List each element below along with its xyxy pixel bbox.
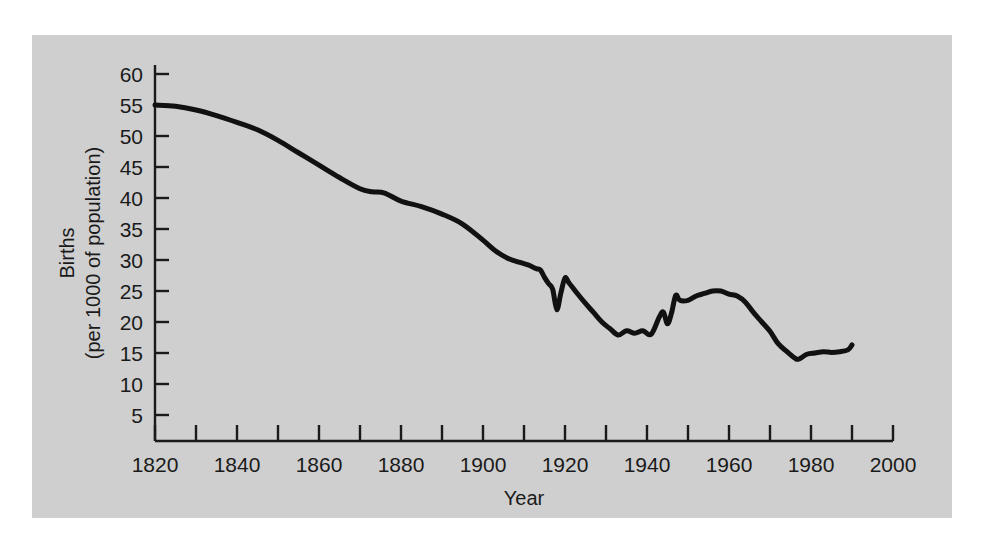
chart-panel: 51015202530354045505560 1820184018601880… (32, 35, 952, 518)
y-tick-label-5: 5 (131, 404, 143, 427)
y-tick-label-35: 35 (120, 218, 143, 241)
series-line-birth-rate (155, 105, 852, 359)
axes (155, 65, 893, 441)
y-tick-label-10: 10 (120, 373, 143, 396)
x-tick-label-2000: 2000 (870, 453, 917, 476)
y-axis-ticks: 51015202530354045505560 (120, 63, 169, 427)
y-tick-label-45: 45 (120, 156, 143, 179)
y-tick-label-25: 25 (120, 280, 143, 303)
x-tick-label-1940: 1940 (624, 453, 671, 476)
y-tick-label-30: 30 (120, 249, 143, 272)
y-axis-title-line1: Births (56, 227, 78, 278)
y-tick-label-50: 50 (120, 125, 143, 148)
y-tick-label-60: 60 (120, 63, 143, 86)
x-axis-minor-ticks (196, 425, 852, 441)
y-axis-title-line2: (per 1000 of population) (82, 147, 104, 359)
x-tick-label-1880: 1880 (378, 453, 425, 476)
y-tick-label-40: 40 (120, 187, 143, 210)
x-tick-label-1820: 1820 (132, 453, 179, 476)
x-axis-title: Year (504, 487, 545, 509)
x-tick-label-1920: 1920 (542, 453, 589, 476)
x-tick-label-1860: 1860 (296, 453, 343, 476)
figure-root: 51015202530354045505560 1820184018601880… (0, 0, 983, 552)
x-tick-label-1900: 1900 (460, 453, 507, 476)
y-tick-label-55: 55 (120, 94, 143, 117)
x-tick-label-1980: 1980 (788, 453, 835, 476)
bleed-through-text (0, 2, 983, 22)
y-tick-label-20: 20 (120, 311, 143, 334)
birth-rate-line-chart: 51015202530354045505560 1820184018601880… (32, 35, 952, 518)
y-tick-label-15: 15 (120, 342, 143, 365)
x-tick-label-1960: 1960 (706, 453, 753, 476)
x-tick-label-1840: 1840 (214, 453, 261, 476)
